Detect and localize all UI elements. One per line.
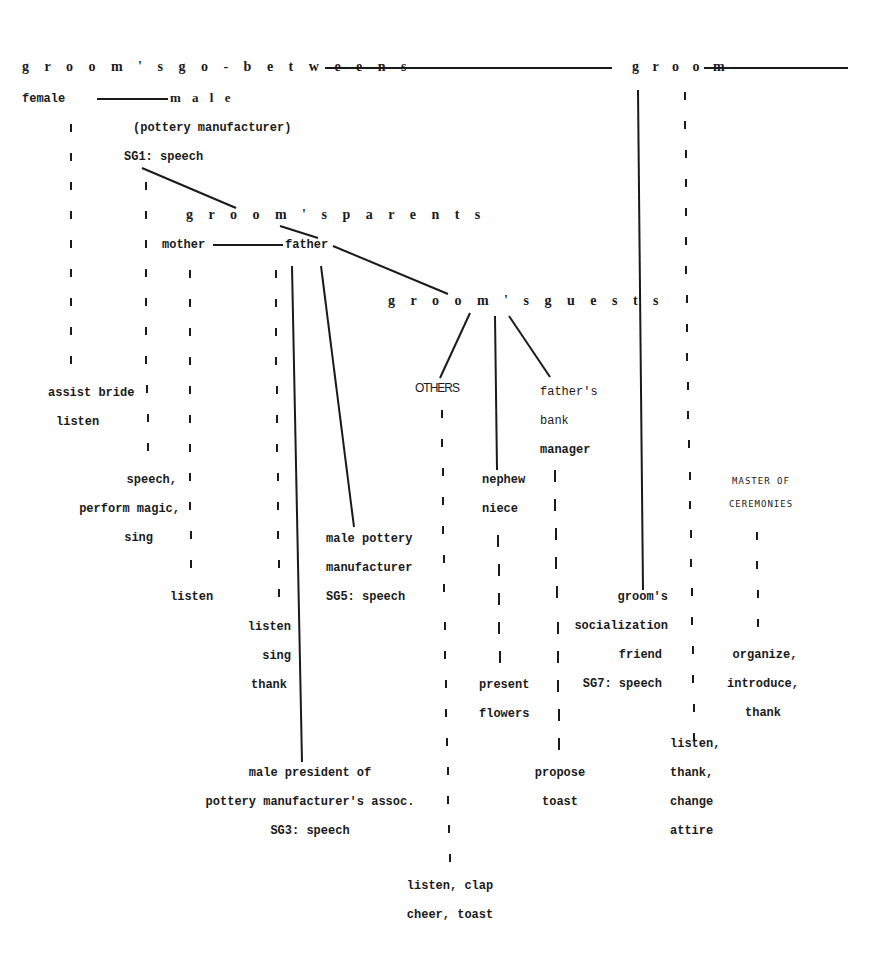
node-male: m a l e	[170, 91, 234, 105]
female-action-assist-bride: assist bride	[48, 386, 134, 400]
groom-action-change: change	[670, 795, 713, 809]
president-line2: pottery manufacturer's assoc.	[190, 795, 430, 809]
groom-action-attire: attire	[670, 824, 713, 838]
female-action-listen: listen	[56, 415, 99, 429]
nephew-niece-action-present: present	[479, 678, 529, 692]
mc-action-organize: organize,	[720, 648, 810, 662]
node-mc-line1: MASTER OF	[718, 474, 804, 488]
node-bank-manager-line3: manager	[540, 443, 590, 457]
node-father: father	[285, 238, 328, 252]
father-action-listen: listen	[248, 620, 291, 634]
friend-line2: socialization	[574, 619, 668, 633]
group-header-parents: g r o o m ' s p a r e n t s	[186, 208, 486, 222]
others-action-line2: cheer, toast	[380, 908, 520, 922]
bank-manager-action-propose: propose	[520, 766, 600, 780]
node-bank-manager-line2: bank	[540, 414, 569, 428]
male-action-sing: sing	[124, 531, 153, 545]
node-male-role: (pottery manufacturer)	[133, 121, 291, 135]
node-mother: mother	[162, 238, 205, 252]
others-action-line1: listen, clap	[380, 879, 520, 893]
mother-action-listen: listen	[170, 590, 213, 604]
group-header-guests: g r o o m ' s g u e s t s	[388, 294, 665, 308]
pottery-manufacturer-code: SG5: speech	[326, 590, 405, 604]
male-action-perform-magic: perform magic,	[79, 502, 180, 516]
group-header-groom: g r o o m	[632, 60, 730, 74]
node-niece: niece	[482, 502, 518, 516]
nephew-niece-action-flowers: flowers	[479, 707, 529, 721]
president-code: SG3: speech	[200, 824, 420, 838]
pottery-manufacturer-line1: male pottery	[326, 532, 412, 546]
friend-line3: friend	[619, 648, 662, 662]
node-male-code: SG1: speech	[124, 150, 203, 164]
node-bank-manager-line1: father's	[540, 385, 598, 399]
wedding-role-diagram: g r o o m ' s g o - b e t w e e n s g r …	[0, 0, 884, 972]
pottery-manufacturer-line2: manufacturer	[326, 561, 412, 575]
friend-line1: groom's	[618, 590, 668, 604]
group-header-go-betweens: g r o o m ' s g o - b e t w e e n s	[22, 60, 413, 74]
mc-action-introduce: introduce,	[716, 677, 810, 691]
male-action-speech: speech,	[127, 473, 177, 487]
node-nephew: nephew	[482, 473, 525, 487]
father-action-sing: sing	[262, 649, 291, 663]
friend-code: SG7: speech	[583, 677, 662, 691]
groom-action-listen: listen,	[670, 737, 720, 751]
node-others: OTHERS	[415, 381, 459, 395]
node-mc-line2: CEREMONIES	[716, 497, 806, 511]
father-action-thank: thank	[251, 678, 287, 692]
president-line1: male president of	[200, 766, 420, 780]
node-female: female	[22, 92, 65, 106]
mc-action-thank: thank	[720, 706, 806, 720]
bank-manager-action-toast: toast	[520, 795, 600, 809]
groom-action-thank: thank,	[670, 766, 713, 780]
